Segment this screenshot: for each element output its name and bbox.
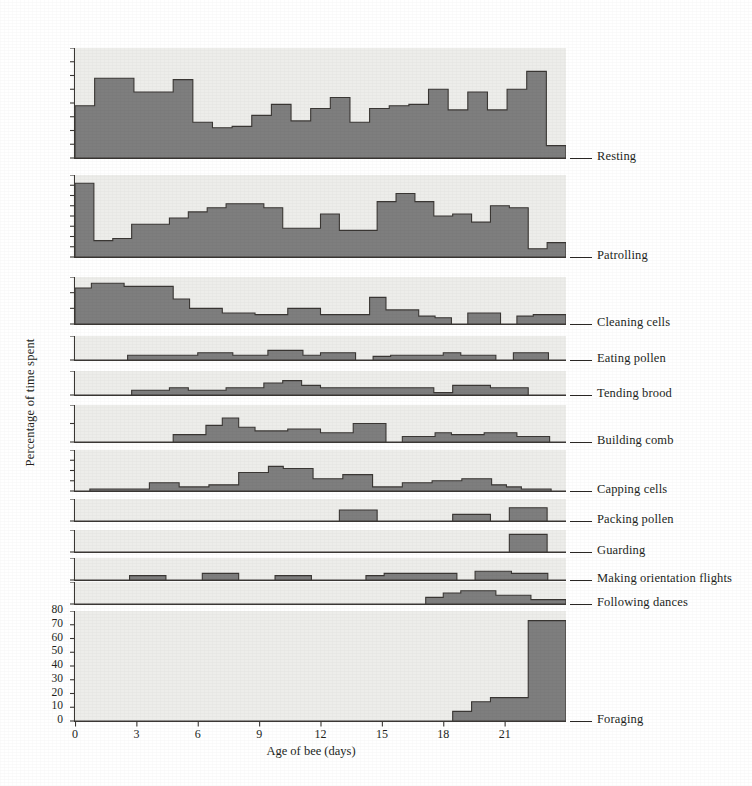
panel-background	[75, 499, 566, 521]
panel-plot-area	[75, 530, 566, 553]
panel-following-dances	[75, 582, 566, 605]
panel-y-axis	[65, 530, 75, 554]
row-label-leader-line	[570, 395, 592, 396]
row-label-leader-line	[570, 257, 592, 258]
row-label-leader-line	[570, 580, 592, 581]
panel-plot-area	[75, 611, 566, 722]
panel-packing-pollen	[75, 499, 566, 522]
panel-plot-area	[75, 371, 566, 396]
panel-capping-cells	[75, 450, 566, 492]
panel-plot-area	[75, 499, 566, 522]
row-label-leader-line	[570, 721, 592, 722]
panel-tending-brood	[75, 371, 566, 396]
row-label-leader-line	[570, 521, 592, 522]
y-axis-label: Percentage of time spent	[23, 303, 38, 503]
row-label-resting: Resting	[597, 149, 636, 164]
panel-y-axis	[65, 558, 75, 582]
panel-y-axis	[65, 450, 75, 493]
y-tick-label: 30	[41, 672, 63, 684]
row-label-leader-line	[570, 360, 592, 361]
panel-background	[75, 530, 566, 552]
y-tick-label: 70	[41, 617, 63, 629]
panel-plot-area	[75, 48, 566, 159]
panel-plot-area	[75, 558, 566, 581]
panel-plot-area	[75, 405, 566, 443]
row-label-packing-pollen: Packing pollen	[597, 512, 674, 527]
panel-y-axis	[65, 582, 75, 606]
row-label-following-dances: Following dances	[597, 595, 688, 610]
row-label-eating-pollen: Eating pollen	[597, 351, 666, 366]
panel-y-axis	[65, 48, 75, 160]
panel-foraging	[75, 611, 566, 722]
panel-plot-area	[75, 277, 566, 325]
row-label-patrolling: Patrolling	[597, 248, 648, 263]
panel-plot-area	[75, 336, 566, 361]
row-label-leader-line	[570, 324, 592, 325]
row-label-guarding: Guarding	[597, 543, 645, 558]
y-tick-label: 80	[41, 603, 63, 615]
panel-y-axis	[65, 405, 75, 444]
panel-building-comb	[75, 405, 566, 443]
x-axis-label-text: Age of bee (days)	[266, 744, 355, 758]
panel-plot-area	[75, 175, 566, 258]
panel-patrolling	[75, 175, 566, 258]
y-tick-label: 40	[41, 658, 63, 670]
y-tick-label: 10	[41, 699, 63, 711]
row-label-tending-brood: Tending brood	[597, 386, 672, 401]
panel-y-axis	[65, 277, 75, 326]
panel-plot-area	[75, 450, 566, 492]
panel-eating-pollen	[75, 336, 566, 361]
x-axis-ticks	[75, 721, 568, 731]
x-axis-label: Age of bee (days)	[0, 744, 752, 759]
y-tick-label: 60	[41, 631, 63, 643]
row-label-foraging: Foraging	[597, 712, 643, 727]
row-label-cleaning-cells: Cleaning cells	[597, 315, 670, 330]
panel-y-axis	[65, 499, 75, 523]
panel-cleaning-cells	[75, 277, 566, 325]
panel-y-axis	[65, 371, 75, 397]
panel-resting	[75, 48, 566, 159]
row-label-capping-cells: Capping cells	[597, 482, 667, 497]
row-label-leader-line	[570, 491, 592, 492]
row-label-leader-line	[570, 604, 592, 605]
row-label-leader-line	[570, 442, 592, 443]
panel-y-axis	[65, 336, 75, 362]
y-tick-label: 0	[41, 713, 63, 725]
panel-y-axis	[65, 175, 75, 259]
y-tick-label: 50	[41, 644, 63, 656]
bee-age-task-allocation-figure: Percentage of time spent RestingPatrolli…	[0, 0, 752, 786]
panel-guarding	[75, 530, 566, 553]
panel-making-orientation-flights	[75, 558, 566, 581]
y-tick-label: 20	[41, 686, 63, 698]
panel-y-axis	[65, 611, 75, 723]
row-label-leader-line	[570, 158, 592, 159]
row-label-building-comb: Building comb	[597, 433, 674, 448]
panel-plot-area	[75, 582, 566, 605]
row-label-leader-line	[570, 552, 592, 553]
row-label-making-orientation-flights: Making orientation flights	[597, 571, 732, 586]
